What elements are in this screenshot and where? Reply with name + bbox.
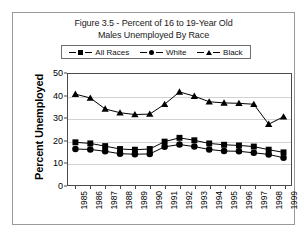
data-point [177,135,183,141]
data-point [281,149,287,155]
x-axis-tick-mark [120,186,121,189]
legend-line-icon [69,52,76,53]
data-point [101,105,108,111]
data-point [87,140,93,146]
y-axis-tick-label: 30 [53,113,63,123]
data-point [280,113,287,119]
x-axis-tick-mark [240,186,241,189]
x-axis-tick-mark [105,186,106,189]
plot-area [67,73,292,186]
legend-line-icon [140,52,147,53]
triangle-marker-icon [205,49,212,56]
chart-legend: All Races White Black [61,45,251,59]
data-point [265,151,272,158]
y-axis-title: Percent Unemployed [33,67,45,187]
x-axis-tick-mark [165,186,166,189]
x-axis-tick-mark [195,186,196,189]
x-axis-tick-label: 1992 [184,191,194,210]
data-point [161,144,168,151]
data-point [117,150,124,157]
y-axis-tick-mark [64,73,67,74]
x-axis-tick-label: 1988 [124,191,134,210]
legend-line-icon [156,52,163,53]
y-axis-tick-mark [64,186,67,187]
chart-title-line-1: Figure 3.5 - Percent of 16 to 19-Year Ol… [13,18,294,30]
x-axis-tick-label: 1991 [169,191,179,210]
data-point [221,142,227,148]
series-layer [68,74,291,186]
x-axis-tick-mark [90,186,91,189]
x-axis-tick-label: 1994 [214,191,224,210]
legend-line-icon [85,52,92,53]
y-axis-tick-mark [64,140,67,141]
data-point [206,140,212,146]
x-axis-tick-mark [210,186,211,189]
x-axis-tick-label: 1987 [109,191,119,210]
data-point [236,148,243,155]
data-point [206,98,213,104]
data-point [280,154,287,161]
legend-item-white: White [140,48,186,57]
data-point [206,146,213,153]
chart-title: Figure 3.5 - Percent of 16 to 19-Year Ol… [13,18,294,41]
plot-wrapper: 01020304050 1985198619871988198919901991… [67,73,292,186]
y-axis-tick-mark [64,163,67,164]
x-axis-tick-mark [255,186,256,189]
chart-title-line-2: Males Unemployed By Race [13,30,294,42]
y-axis-tick-mark [64,95,67,96]
x-axis-tick-label: 1993 [199,191,209,210]
series-black [72,88,287,127]
data-point [191,137,197,143]
x-axis-tick-label: 1990 [154,191,164,210]
legend-label-black: Black [223,48,243,57]
data-point [176,141,183,148]
data-point [221,148,228,155]
x-axis-tick-label: 1989 [139,191,149,210]
data-point [72,146,79,153]
square-marker-icon [77,49,84,56]
data-point [251,144,257,150]
x-axis-tick-label: 1997 [259,191,269,210]
data-point [146,151,153,158]
legend-line-icon [213,52,220,53]
legend-line-icon [197,52,204,53]
y-axis-tick-label: 20 [53,136,63,146]
circle-marker-icon [148,49,155,56]
x-axis-tick-mark [225,186,226,189]
x-axis-tick-label: 1986 [94,191,104,210]
y-axis-tick-label: 50 [53,68,63,78]
data-point [176,88,183,94]
data-point [191,143,198,150]
data-point [236,142,242,148]
x-axis-tick-label: 1999 [289,191,299,210]
legend-item-black: Black [197,48,243,57]
x-axis-tick-mark [75,186,76,189]
data-point [251,150,258,157]
x-axis-tick-label: 1995 [229,191,239,210]
data-point [102,148,109,155]
legend-item-all-races: All Races [69,48,129,57]
legend-label-all-races: All Races [95,48,129,57]
data-point [87,146,94,153]
y-axis-tick-mark [64,118,67,119]
x-axis-tick-label: 1998 [274,191,284,210]
y-axis-tick-label: 40 [53,91,63,101]
y-axis-tick-label: 10 [53,158,63,168]
x-axis-tick-mark [135,186,136,189]
x-axis-tick-mark [285,186,286,189]
data-point [132,151,139,158]
x-axis-tick-mark [270,186,271,189]
x-axis-tick-label: 1996 [244,191,254,210]
y-axis-tick-label: 0 [58,181,63,191]
x-axis-tick-mark [150,186,151,189]
data-point [72,91,79,97]
x-axis-tick-label: 1985 [79,191,89,210]
figure-container: Figure 3.5 - Percent of 16 to 19-Year Ol… [12,12,295,225]
x-axis-tick-mark [180,186,181,189]
data-point [72,139,78,145]
legend-label-white: White [166,48,186,57]
